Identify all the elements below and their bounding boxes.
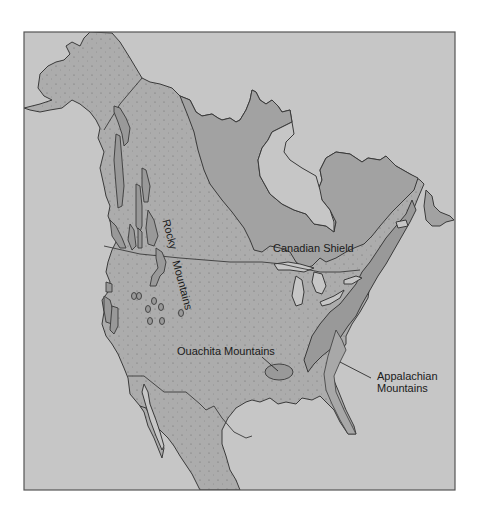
north-america-map <box>0 0 479 515</box>
label-canadian-shield: Canadian Shield <box>273 242 354 254</box>
ouachita-mountains-region <box>265 364 293 380</box>
gulf-st-lawrence <box>396 220 408 228</box>
label-appalachian-mountains: Mountains <box>377 382 428 394</box>
label-appalachian: Appalachian <box>377 370 438 382</box>
label-ouachita-mountains: Ouachita Mountains <box>177 345 275 357</box>
